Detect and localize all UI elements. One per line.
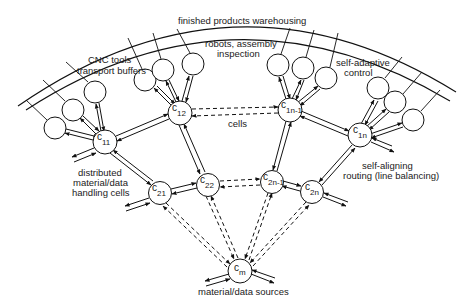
tool-circle bbox=[384, 91, 406, 113]
label-sources: material/data sources bbox=[198, 286, 289, 297]
label-robots-2: inspection bbox=[217, 48, 260, 59]
tool-circle bbox=[84, 81, 106, 103]
label-cells: cells bbox=[228, 118, 247, 129]
tool-circle bbox=[182, 53, 204, 75]
tool-circle bbox=[315, 67, 337, 89]
tool-circle bbox=[402, 109, 424, 131]
annotation-labels: finished products warehousing CNC tools … bbox=[72, 15, 439, 297]
label-self-adaptive-2: control bbox=[344, 67, 373, 78]
tool-circle bbox=[292, 57, 314, 79]
label-distributed-3: handling cells bbox=[72, 187, 130, 198]
label-cnc-2: transport buffers bbox=[77, 65, 146, 76]
tool-circle bbox=[62, 99, 84, 121]
label-cnc-1: CNC tools bbox=[88, 54, 132, 65]
tool-circle bbox=[44, 117, 66, 139]
label-warehouse: finished products warehousing bbox=[178, 15, 306, 26]
tool-circle bbox=[267, 54, 289, 76]
manufacturing-cell-network-diagram: c11 c12 c1n-1 c1n c21 c22 c2n-1 c2n cm f… bbox=[0, 0, 471, 308]
label-self-aligning-2: routing (line balancing) bbox=[343, 170, 439, 181]
tool-circle bbox=[152, 59, 174, 81]
